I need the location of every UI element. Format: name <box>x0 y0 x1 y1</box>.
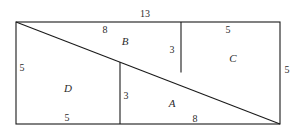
geometry-figure: 13 8 5 5 5 3 3 5 8 A B C D <box>0 0 302 133</box>
figure-background <box>0 0 302 133</box>
figure-canvas <box>0 0 302 133</box>
